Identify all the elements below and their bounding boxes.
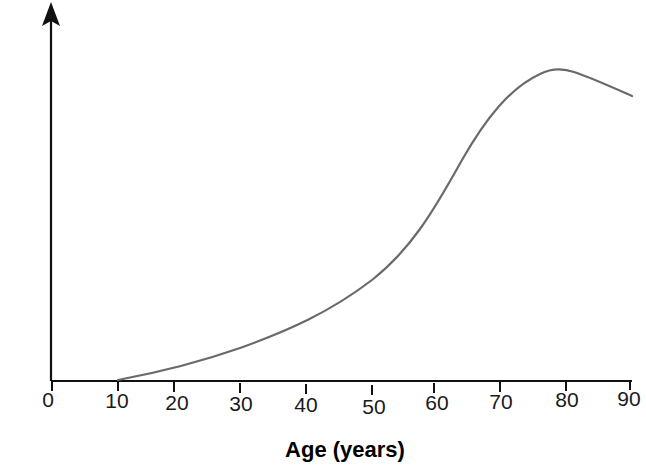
x-tick-label-30: 30 — [229, 392, 252, 415]
x-tick-label-70: 70 — [489, 390, 512, 413]
x-tick-label-60: 60 — [425, 391, 448, 414]
x-tick-label-10: 10 — [105, 389, 128, 412]
x-tick-label-40: 40 — [294, 393, 317, 416]
x-axis-ticks — [52, 380, 630, 395]
x-tick-label-0: 0 — [42, 388, 54, 411]
chart-canvas: 0 10 20 30 40 50 60 70 80 90 Age (years) — [0, 0, 646, 472]
x-axis-title: Age (years) — [285, 437, 405, 462]
x-tick-label-90: 90 — [617, 387, 640, 410]
x-axis-tick-labels: 0 10 20 30 40 50 60 70 80 90 — [42, 387, 641, 418]
x-tick-label-20: 20 — [165, 391, 188, 414]
x-tick-label-50: 50 — [362, 395, 385, 418]
data-series-line — [118, 70, 632, 380]
x-tick-label-80: 80 — [555, 388, 578, 411]
chart-figure: 0 10 20 30 40 50 60 70 80 90 Age (years) — [0, 0, 646, 472]
